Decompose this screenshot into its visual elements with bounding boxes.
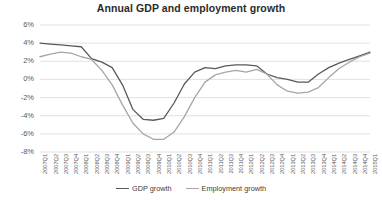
series-line-employment-growth	[40, 52, 370, 139]
legend-item: Employment growth	[186, 184, 266, 193]
gridlines	[40, 25, 370, 152]
legend-color-swatch	[186, 188, 199, 189]
y-axis-tick-label: 2%	[0, 57, 34, 65]
y-axis-tick-label: -4%	[0, 112, 34, 120]
y-axis-tick-label: -2%	[0, 94, 34, 102]
y-axis-tick-label: 6%	[0, 21, 34, 29]
chart-plot-area	[0, 0, 382, 202]
legend-color-swatch	[116, 188, 129, 189]
y-axis-tick-label: -6%	[0, 130, 34, 138]
y-axis-tick-label: 4%	[0, 39, 34, 47]
y-axis-tick-label: 0%	[0, 75, 34, 83]
y-axis-tick-label: -8%	[0, 148, 34, 156]
series-lines	[40, 43, 370, 139]
legend-label: Employment growth	[202, 184, 266, 193]
chart-container: Annual GDP and employment growth 6%4%2%0…	[0, 0, 382, 202]
legend-label: GDP growth	[132, 184, 172, 193]
legend-item: GDP growth	[116, 184, 172, 193]
chart-legend: GDP growthEmployment growth	[0, 184, 382, 193]
